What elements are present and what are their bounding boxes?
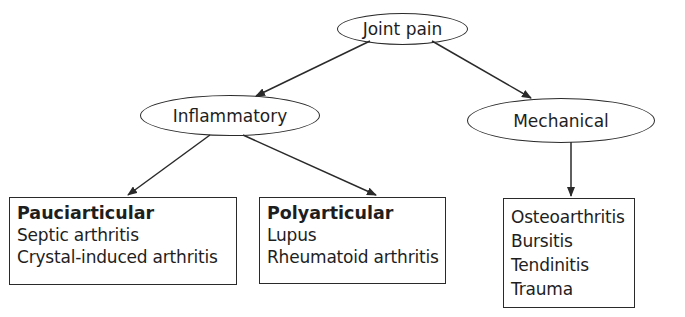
list-item: Crystal-induced arthritis: [17, 246, 236, 268]
list-item: Septic arthritis: [17, 224, 236, 246]
list-item: Trauma: [511, 277, 634, 301]
list-item: Osteoarthritis: [511, 205, 634, 229]
box-polyarticular: Polyarticular Lupus Rheumatoid arthritis: [259, 197, 446, 284]
box-mechanical-causes: Osteoarthritis Bursitis Tendinitis Traum…: [503, 198, 635, 308]
list-item: Lupus: [267, 224, 445, 246]
node-joint-pain: Joint pain: [337, 13, 468, 45]
node-mechanical-label: Mechanical: [513, 111, 609, 131]
list-item: Tendinitis: [511, 253, 634, 277]
node-joint-pain-label: Joint pain: [363, 19, 443, 39]
node-inflammatory: Inflammatory: [140, 95, 320, 136]
list-item: Rheumatoid arthritis: [267, 246, 445, 268]
box-pauciarticular-title: Pauciarticular: [17, 202, 236, 224]
box-polyarticular-title: Polyarticular: [267, 202, 445, 224]
list-item: Bursitis: [511, 229, 634, 253]
box-pauciarticular: Pauciarticular Septic arthritis Crystal-…: [9, 197, 237, 285]
node-inflammatory-label: Inflammatory: [173, 106, 288, 126]
node-mechanical: Mechanical: [467, 98, 655, 143]
